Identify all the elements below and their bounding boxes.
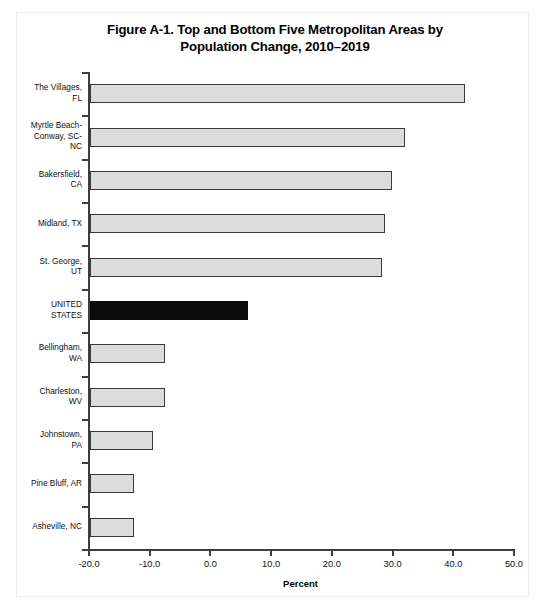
- y-axis-tick: [82, 115, 89, 117]
- x-axis-tick: [452, 549, 454, 556]
- y-axis-tick: [82, 419, 89, 421]
- x-axis-tick-label: -10.0: [120, 559, 180, 569]
- y-axis-tick: [82, 506, 89, 508]
- category-label-line: WA: [6, 353, 82, 364]
- category-label-line: Midland, TX: [6, 218, 82, 229]
- bar-united-states: [90, 301, 248, 320]
- y-axis-tick: [82, 159, 89, 161]
- x-axis-tick-label: 20.0: [302, 559, 362, 569]
- x-axis-tick-label: 50.0: [484, 559, 543, 569]
- x-axis-tick: [88, 549, 90, 556]
- category-label-line: PA: [6, 440, 82, 451]
- y-axis-tick: [82, 376, 89, 378]
- category-label-line: CA: [6, 179, 82, 190]
- category-label-line: Pine Bluff, AR: [6, 478, 82, 489]
- bar-johnstown-pa: [90, 431, 153, 450]
- y-axis-tick: [82, 332, 89, 334]
- x-axis-tick: [209, 549, 211, 556]
- category-label-line: WV: [6, 396, 82, 407]
- x-axis-tick-label: 10.0: [241, 559, 301, 569]
- bar-bellingham-wa: [90, 344, 165, 363]
- bar-asheville-nc: [90, 518, 134, 537]
- bar-midland-tx: [90, 214, 385, 233]
- category-label-3: Midland, TX: [6, 218, 82, 229]
- y-axis-tick: [82, 462, 89, 464]
- category-label-line: The Villages,: [6, 82, 82, 93]
- category-label-line: UNITED: [6, 299, 82, 310]
- x-axis-tick-label: 30.0: [363, 559, 423, 569]
- bar-the-villages-fl: [90, 84, 465, 103]
- category-label-line: Conway, SC-: [6, 131, 82, 142]
- bar-myrtle-beach-conway-sc-nc: [90, 128, 405, 147]
- category-label-line: Myrtle Beach-: [6, 120, 82, 131]
- category-label-line: Bellingham,: [6, 342, 82, 353]
- x-axis-tick-label: 0.0: [180, 559, 240, 569]
- x-axis-line: [88, 549, 513, 551]
- category-label-line: NC: [6, 141, 82, 152]
- category-label-line: FL: [6, 93, 82, 104]
- y-axis-tick: [82, 289, 89, 291]
- chart-title-line-1: Figure A-1. Top and Bottom Five Metropol…: [107, 22, 443, 37]
- category-label-line: Johnstown,: [6, 429, 82, 440]
- category-label-7: Charleston,WV: [6, 386, 82, 407]
- x-axis-tick: [149, 549, 151, 556]
- chart-title-line-2: Population Change, 2010–2019: [60, 39, 490, 56]
- x-axis-tick: [331, 549, 333, 556]
- category-label-5: UNITEDSTATES: [6, 299, 82, 320]
- x-axis-tick-label: -20.0: [59, 559, 119, 569]
- category-label-9: Pine Bluff, AR: [6, 478, 82, 489]
- chart-title: Figure A-1. Top and Bottom Five Metropol…: [60, 22, 490, 55]
- y-axis-tick: [82, 72, 89, 74]
- category-label-1: Myrtle Beach-Conway, SC-NC: [6, 120, 82, 152]
- x-axis-tick: [392, 549, 394, 556]
- category-label-line: Charleston,: [6, 386, 82, 397]
- bar-pine-bluff-ar: [90, 474, 134, 493]
- category-label-line: St. George,: [6, 256, 82, 267]
- x-axis-tick: [270, 549, 272, 556]
- category-label-6: Bellingham,WA: [6, 342, 82, 363]
- bar-bakersfield-ca: [90, 171, 392, 190]
- x-axis-tick: [513, 549, 515, 556]
- plot-area: -20.0-10.00.010.020.030.040.050.0: [88, 72, 513, 549]
- category-label-line: Bakersfield,: [6, 169, 82, 180]
- y-axis-tick: [82, 245, 89, 247]
- y-axis-tick: [82, 202, 89, 204]
- category-label-2: Bakersfield,CA: [6, 169, 82, 190]
- category-label-line: STATES: [6, 310, 82, 321]
- category-label-10: Asheville, NC: [6, 521, 82, 532]
- category-label-line: Asheville, NC: [6, 521, 82, 532]
- category-label-8: Johnstown,PA: [6, 429, 82, 450]
- category-label-4: St. George,UT: [6, 256, 82, 277]
- bar-st-george-ut: [90, 258, 382, 277]
- bar-charleston-wv: [90, 388, 165, 407]
- figure-container: Figure A-1. Top and Bottom Five Metropol…: [0, 0, 543, 612]
- x-axis-title: Percent: [88, 578, 513, 589]
- x-axis-tick-label: 40.0: [423, 559, 483, 569]
- category-label-0: The Villages,FL: [6, 82, 82, 103]
- category-label-line: UT: [6, 266, 82, 277]
